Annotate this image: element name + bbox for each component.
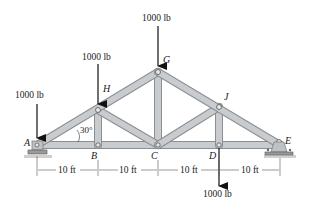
pin-D (217, 143, 221, 147)
load-H: 1000 lb (82, 52, 111, 104)
dim-label-AB: 10 ft (58, 165, 76, 175)
ground-right (264, 155, 296, 158)
load-A: 1000 lb (15, 90, 44, 138)
load-label-D: 1000 lb (203, 189, 232, 199)
dim-label-CD: 10 ft (180, 165, 198, 175)
load-D: 1000 lb (203, 148, 232, 199)
dim-label-DE: 10 ft (241, 165, 259, 175)
truss-diagram: 1000 lb 1000 lb 1000 lb 1000 lb A B C D … (0, 0, 310, 209)
joint-label-C: C (151, 150, 158, 161)
pin-G (156, 70, 161, 75)
pin-C (156, 143, 160, 147)
dim-label-BC: 10 ft (119, 165, 137, 175)
pin-H (96, 108, 101, 113)
load-label-A: 1000 lb (15, 90, 44, 100)
joint-label-E: E (284, 135, 291, 146)
joint-label-J: J (224, 91, 229, 102)
angle-annotation: 30° (77, 125, 93, 142)
ground-left (24, 155, 52, 158)
joint-label-D: D (208, 150, 217, 161)
joint-label-B: B (91, 150, 97, 161)
joint-label-H: H (102, 83, 111, 94)
pin-J (217, 105, 222, 110)
joint-pins (96, 70, 282, 148)
pin-B (96, 143, 100, 147)
load-label-H: 1000 lb (82, 52, 111, 62)
joint-label-A: A (23, 137, 31, 148)
joint-label-G: G (163, 54, 170, 65)
angle-label: 30° (80, 125, 93, 135)
load-label-G: 1000 lb (142, 13, 171, 23)
truss-members (37, 72, 280, 145)
